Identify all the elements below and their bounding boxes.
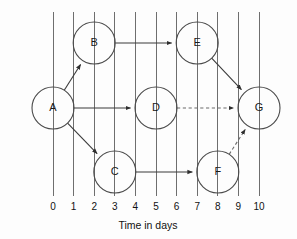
axis-tick-labels-group: 012345678910 xyxy=(50,201,265,212)
edge-f-to-g xyxy=(229,129,245,154)
tick-label-8: 8 xyxy=(215,201,221,212)
edge-e-to-g xyxy=(212,58,242,89)
tick-label-3: 3 xyxy=(112,201,118,212)
edge-a-to-b xyxy=(64,65,80,91)
tick-label-5: 5 xyxy=(153,201,159,212)
node-a[interactable]: A xyxy=(32,87,74,129)
tick-label-6: 6 xyxy=(174,201,180,212)
tick-label-7: 7 xyxy=(194,201,200,212)
node-label-d: D xyxy=(152,101,160,113)
node-c[interactable]: C xyxy=(94,151,136,193)
node-label-e: E xyxy=(194,36,201,48)
node-label-c: C xyxy=(111,165,119,177)
network-diagram: ABCDEFG 012345678910 Time in days xyxy=(0,0,297,239)
axis-title: Time in days xyxy=(118,219,177,231)
network-diagram-canvas: ABCDEFG 012345678910 Time in days xyxy=(0,0,297,239)
node-label-f: F xyxy=(214,165,221,177)
node-e[interactable]: E xyxy=(176,22,218,64)
node-label-a: A xyxy=(49,101,57,113)
tick-label-1: 1 xyxy=(71,201,77,212)
tick-label-4: 4 xyxy=(133,201,139,212)
node-f[interactable]: F xyxy=(197,151,239,193)
tick-label-10: 10 xyxy=(253,201,265,212)
tick-label-0: 0 xyxy=(50,201,56,212)
tick-label-9: 9 xyxy=(236,201,242,212)
node-d[interactable]: D xyxy=(135,87,177,129)
tick-label-2: 2 xyxy=(91,201,97,212)
node-label-g: G xyxy=(255,101,264,113)
node-label-b: B xyxy=(91,36,98,48)
node-g[interactable]: G xyxy=(238,87,280,129)
node-b[interactable]: B xyxy=(73,22,115,64)
edge-a-to-c xyxy=(68,123,97,154)
